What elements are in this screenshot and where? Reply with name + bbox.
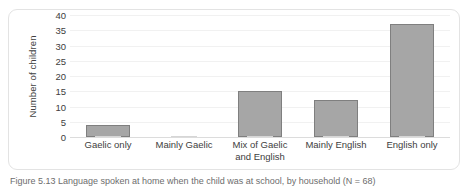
y-axis-tick-25: 25	[55, 55, 66, 66]
x-axis-tick-mark	[171, 136, 197, 137]
plot-area	[70, 15, 450, 137]
x-axis-label-3: Mainly English	[298, 139, 374, 151]
y-axis-title: Number of children	[23, 15, 41, 137]
bar[interactable]	[390, 24, 434, 137]
x-axis-label-2: Mix of Gaelicand English	[222, 139, 298, 162]
y-axis-title-label: Number of children	[27, 35, 38, 117]
bar-slot	[70, 15, 146, 137]
bar[interactable]	[314, 100, 358, 137]
y-axis-tick-30: 30	[55, 40, 66, 51]
x-axis-tick-mark	[95, 136, 121, 137]
x-label-wrap: Mainly Gaelic	[146, 139, 222, 169]
axis-baseline	[70, 137, 450, 138]
figure-caption: Figure 5.13 Language spoken at home when…	[10, 176, 462, 187]
bar-series	[70, 15, 450, 137]
y-axis-tick-40: 40	[55, 10, 66, 21]
y-axis-tick-5: 5	[61, 116, 66, 127]
x-label-wrap: Mainly English	[298, 139, 374, 169]
x-axis-label-1: Mainly Gaelic	[146, 139, 222, 151]
x-label-wrap: English only	[374, 139, 450, 169]
chart-card: Number of children 4035302520151050 Gael…	[8, 9, 460, 170]
x-axis-tick-mark	[399, 136, 425, 137]
x-axis-tick-mark	[247, 136, 273, 137]
x-axis-label-0: Gaelic only	[70, 139, 146, 151]
x-axis-label-4: English only	[374, 139, 450, 151]
chart-plot-region: Number of children 4035302520151050 Gael…	[9, 10, 459, 169]
bar-slot	[222, 15, 298, 137]
bar-slot	[374, 15, 450, 137]
y-axis-tick-0: 0	[61, 132, 66, 143]
bar-slot	[298, 15, 374, 137]
x-axis-tick-mark	[323, 136, 349, 137]
x-label-wrap: Mix of Gaelicand English	[222, 139, 298, 169]
y-axis-tick-10: 10	[55, 101, 66, 112]
x-label-wrap: Gaelic only	[70, 139, 146, 169]
figure-container: Number of children 4035302520151050 Gael…	[0, 0, 472, 190]
x-axis-category-labels: Gaelic onlyMainly GaelicMix of Gaelicand…	[70, 139, 450, 169]
bar-slot	[146, 15, 222, 137]
y-axis-tick-20: 20	[55, 71, 66, 82]
bar[interactable]	[238, 91, 282, 137]
y-axis-tick-labels: 4035302520151050	[43, 15, 69, 137]
y-axis-tick-35: 35	[55, 25, 66, 36]
y-axis-tick-15: 15	[55, 86, 66, 97]
